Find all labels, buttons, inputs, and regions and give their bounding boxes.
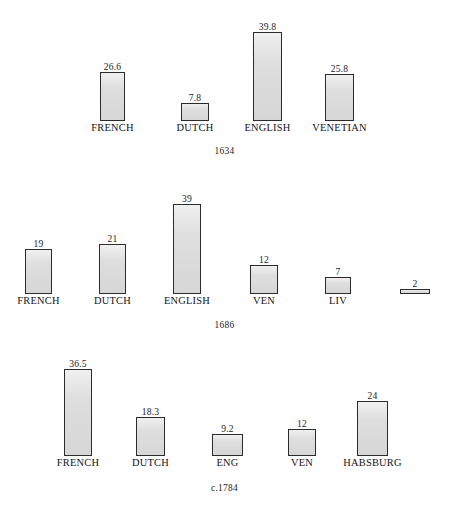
bar: 9.2 — [212, 434, 243, 456]
bar: 36.5 — [64, 369, 92, 456]
bar-value-label: 12 — [297, 418, 307, 429]
bar: 18.3 — [136, 417, 165, 456]
bar: 24 — [357, 401, 388, 456]
bar-category-label: VEN — [291, 457, 313, 469]
panel-caption: c.1784 — [0, 483, 449, 494]
naval-strength-bar-chart-figure: 26.6FRENCH7.8DUTCH39.8ENGLISH25.8VENETIA… — [0, 0, 449, 505]
bar-category-label: HABSBURG — [343, 457, 402, 469]
bar-category-label: FRENCH — [57, 457, 100, 469]
bar-value-label: 18.3 — [142, 406, 160, 417]
chart-panel-c.1784: 36.5FRENCH18.3DUTCH9.2ENG12VEN24HABSBURG — [0, 0, 449, 456]
bar-value-label: 36.5 — [69, 358, 87, 369]
bar-category-label: DUTCH — [132, 457, 169, 469]
bar-value-label: 24 — [368, 390, 378, 401]
bar-category-label: ENG — [216, 457, 238, 469]
bar: 12 — [288, 429, 316, 456]
bar-value-label: 9.2 — [221, 423, 234, 434]
